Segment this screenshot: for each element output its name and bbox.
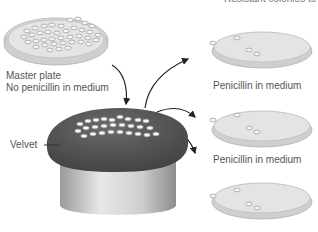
replica-plate-3 [210,183,312,219]
replica-plate-1-label: Penicillin in medium [213,80,301,92]
master-plate-label: Master plate No penicillin in medium [6,70,109,94]
velvet-label: Velvet [10,139,37,151]
replica-plate-2 [210,111,312,147]
replica-plating-diagram [0,0,318,232]
master-plate [4,17,108,65]
replica-plate-2-label: Penicillin in medium [213,154,301,166]
velvet-block [47,108,188,215]
replica-plate-1 [210,32,312,68]
arrow-to-plate-1 [145,59,188,108]
arrow-master-to-velvet [112,65,126,104]
